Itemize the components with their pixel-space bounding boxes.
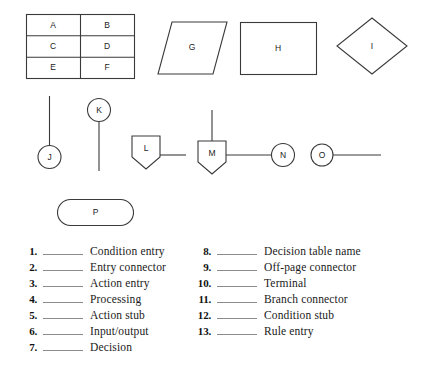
list-item: 5. Action stub [16,307,206,323]
list-item: 12. Condition stub [190,307,429,323]
answer-blank[interactable] [217,259,257,271]
item-number: 9. [190,259,211,275]
item-number: 11. [190,291,211,307]
answer-blank[interactable] [217,307,257,319]
list-item: 3. Action entry [16,275,206,291]
answer-blank[interactable] [217,275,257,287]
item-number: 12. [190,307,211,323]
table-cell-label-d: D [104,41,110,51]
item-number: 8. [190,243,211,259]
answer-blank[interactable] [217,291,257,303]
answer-list-left-column: 1. Condition entry 2. Entry connector 3.… [16,243,206,355]
answer-blank[interactable] [43,307,83,319]
item-label: Action entry [90,275,150,291]
item-label: Condition entry [90,243,165,259]
list-item: 7. Decision [16,339,206,355]
item-number: 13. [190,323,211,339]
item-number: 5. [16,307,37,323]
item-number: 2. [16,259,37,275]
answer-blank[interactable] [43,339,83,351]
shape-label-i: I [371,41,373,51]
shape-label-o: O [319,150,326,160]
shape-label-n: N [280,150,286,160]
item-label: Off-page connector [264,259,356,275]
list-item: 4. Processing [16,291,206,307]
shape-label-p: P [93,207,99,217]
item-label: Entry connector [90,259,166,275]
list-item: 6. Input/output [16,323,206,339]
decision-table [27,15,135,79]
shape-label-k: K [96,105,102,115]
item-label: Decision table name [264,243,361,259]
item-label: Decision [90,339,132,355]
item-number: 1. [16,243,37,259]
shape-label-j: J [47,152,51,162]
table-cell-label-a: A [50,20,56,30]
list-item: 10. Terminal [190,275,429,291]
table-cell-label-c: C [50,41,56,51]
answer-blank[interactable] [217,243,257,255]
list-item: 13. Rule entry [190,323,429,339]
table-cell-label-b: B [104,20,110,30]
answer-blank[interactable] [217,323,257,335]
shape-label-g: G [189,42,196,52]
answer-blank[interactable] [43,323,83,335]
list-item: 1. Condition entry [16,243,206,259]
item-label: Input/output [90,323,149,339]
answer-list-right-column: 8. Decision table name 9. Off-page conne… [190,243,429,339]
item-number: 7. [16,339,37,355]
list-item: 8. Decision table name [190,243,429,259]
answer-list: 1. Condition entry 2. Entry connector 3.… [0,243,429,367]
table-cell-label-f: F [104,62,109,72]
answer-blank[interactable] [43,291,83,303]
item-number: 6. [16,323,37,339]
item-number: 3. [16,275,37,291]
shape-label-h: H [275,43,281,53]
diagram-canvas: A B C D E F G H I J K L M N O P [0,0,429,240]
answer-blank[interactable] [43,243,83,255]
list-item: 9. Off-page connector [190,259,429,275]
item-label: Processing [90,291,141,307]
list-item: 2. Entry connector [16,259,206,275]
item-number: 4. [16,291,37,307]
table-cell-label-e: E [50,62,56,72]
item-label: Rule entry [264,323,314,339]
item-label: Terminal [264,275,307,291]
item-number: 10. [190,275,211,291]
shape-label-l: L [144,143,149,153]
answer-blank[interactable] [43,259,83,271]
item-label: Action stub [90,307,145,323]
list-item: 11. Branch connector [190,291,429,307]
flowchart-diagram: A B C D E F G H I J K L M N O P [0,0,429,240]
item-label: Condition stub [264,307,334,323]
item-label: Branch connector [264,291,348,307]
shape-label-m: M [208,148,215,158]
answer-blank[interactable] [43,275,83,287]
